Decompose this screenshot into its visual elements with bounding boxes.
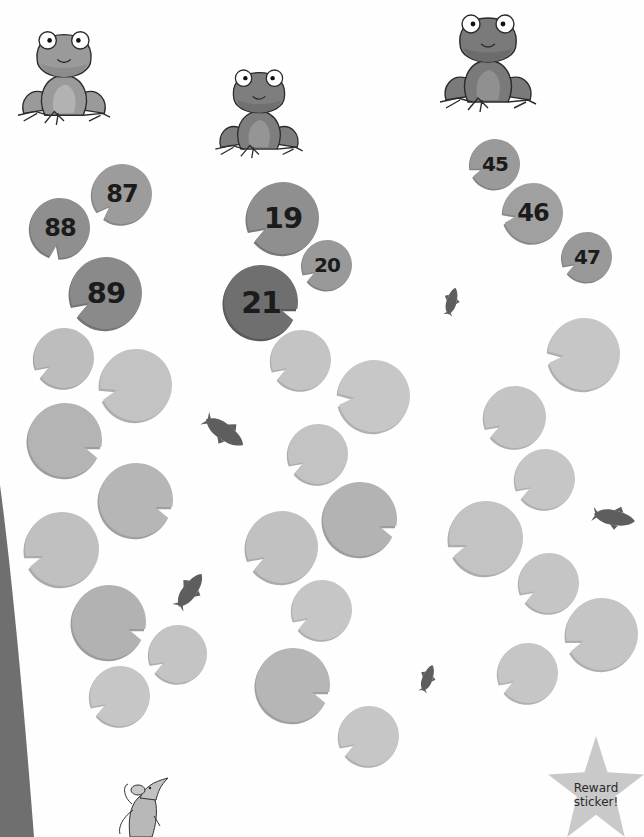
lily-pad-icon: [256, 648, 330, 722]
fish-icon: [417, 276, 487, 323]
numbered-lily-pad-46: 46: [503, 183, 563, 243]
numbered-lily-pad-88: 88: [30, 198, 90, 258]
frog-icon: [438, 0, 538, 118]
blank-lily-pad[interactable]: [72, 585, 146, 659]
lily-pad-icon: [90, 666, 150, 726]
blank-lily-pad[interactable]: [271, 330, 331, 390]
blank-lily-pad[interactable]: [323, 482, 397, 556]
lily-pad-icon: [25, 512, 99, 586]
lily-pad-icon: [548, 318, 620, 390]
blank-lily-pad[interactable]: [99, 463, 173, 537]
lily-pad-icon: [246, 511, 318, 583]
lily-pad-icon: [515, 449, 575, 509]
numbered-lily-pad-47: 47: [562, 232, 612, 282]
blank-lily-pad[interactable]: [449, 501, 523, 575]
blank-lily-pad[interactable]: [498, 643, 558, 703]
blank-lily-pad[interactable]: [25, 512, 99, 586]
blank-lily-pad[interactable]: [339, 706, 399, 766]
blank-lily-pad[interactable]: [256, 648, 330, 722]
lily-pad-number: 45: [470, 139, 520, 189]
frog-right: [438, 0, 538, 118]
fish-1: [200, 410, 252, 456]
lily-pad-icon: [271, 330, 331, 390]
reward-sticker: Reward sticker!: [548, 736, 644, 837]
lily-pad-icon: [323, 482, 397, 556]
activity-page: 878889192021454647: [0, 0, 644, 837]
lily-pad-icon: [34, 328, 94, 388]
numbered-lily-pad-87: 87: [92, 164, 152, 224]
lily-pad-number: 20: [302, 240, 352, 290]
lily-pad-number: 89: [70, 257, 142, 329]
lily-pad-icon: [484, 386, 546, 448]
blank-lily-pad[interactable]: [288, 424, 348, 484]
lily-pad-icon: [72, 585, 146, 659]
lily-pad-icon: [449, 501, 523, 575]
lily-pad-icon: [100, 349, 172, 421]
lily-pad-icon: [498, 643, 558, 703]
lily-pad-icon: [566, 598, 638, 670]
blank-lily-pad[interactable]: [484, 386, 546, 448]
lily-pad-icon: [338, 360, 410, 432]
mouse-icon: [100, 770, 170, 837]
numbered-lily-pad-21: 21: [224, 265, 298, 339]
fish-2: [168, 560, 214, 618]
frog-left: [16, 8, 112, 140]
lily-pad-number: 87: [92, 164, 152, 224]
blank-lily-pad[interactable]: [34, 328, 94, 388]
fish-5: [592, 500, 640, 536]
fish-icon: [589, 496, 643, 540]
reward-sticker-text: Reward sticker!: [548, 736, 644, 837]
blank-lily-pad[interactable]: [28, 403, 102, 477]
blank-lily-pad[interactable]: [338, 360, 410, 432]
fish-icon: [154, 554, 228, 625]
fish-icon: [397, 653, 459, 702]
lily-pad-icon: [292, 580, 352, 640]
frog-middle: [198, 60, 320, 160]
blank-lily-pad[interactable]: [292, 580, 352, 640]
numbered-lily-pad-89: 89: [70, 257, 142, 329]
fish-4: [412, 650, 444, 704]
lily-pad-number: 88: [30, 198, 90, 258]
lily-pad-number: 46: [503, 183, 563, 243]
lily-pad-icon: [288, 424, 348, 484]
lily-pad-icon: [339, 706, 399, 766]
blank-lily-pad[interactable]: [149, 625, 207, 683]
reward-sticker-line1: Reward: [574, 781, 619, 795]
blank-lily-pad[interactable]: [566, 598, 638, 670]
blank-lily-pad[interactable]: [90, 666, 150, 726]
lily-pad-icon: [149, 625, 207, 683]
blank-lily-pad[interactable]: [246, 511, 318, 583]
reward-sticker-line2: sticker!: [574, 795, 619, 809]
mouse-character: [100, 770, 170, 837]
lily-pad-number: 21: [224, 265, 298, 339]
lily-pad-number: 47: [562, 232, 612, 282]
blank-lily-pad[interactable]: [100, 349, 172, 421]
blank-lily-pad[interactable]: [515, 449, 575, 509]
frog-icon: [16, 8, 112, 140]
lily-pad-icon: [99, 463, 173, 537]
numbered-lily-pad-45: 45: [470, 139, 520, 189]
fish-icon: [192, 399, 261, 467]
numbered-lily-pad-20: 20: [302, 240, 352, 290]
blank-lily-pad[interactable]: [548, 318, 620, 390]
fish-3: [436, 268, 468, 332]
lily-pad-icon: [28, 403, 102, 477]
frog-icon: [198, 60, 320, 160]
